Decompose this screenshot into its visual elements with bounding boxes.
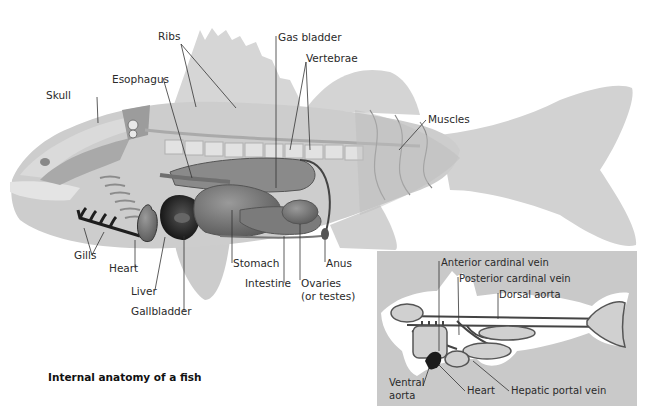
- second-dorsal-fin: [305, 70, 420, 115]
- anus-organ: [321, 228, 329, 240]
- label-ribs: Ribs: [158, 30, 180, 42]
- circulatory-inset: Anterior cardinal vein Posterior cardina…: [377, 251, 637, 406]
- label-esophagus: Esophagus: [112, 73, 169, 85]
- label-muscles: Muscles: [428, 113, 470, 125]
- ovaries-organ: [282, 200, 318, 224]
- label-ventral-aorta-sub: aorta: [389, 390, 415, 402]
- label-posterior-cardinal-vein: Posterior cardinal vein: [459, 273, 571, 285]
- label-heart: Heart: [109, 262, 138, 274]
- label-ventral-aorta: Ventral: [389, 377, 425, 389]
- label-gas-bladder: Gas bladder: [278, 31, 342, 43]
- label-gills: Gills: [74, 249, 96, 261]
- label-inset-heart: Heart: [467, 385, 495, 397]
- label-anterior-cardinal-vein: Anterior cardinal vein: [441, 257, 549, 269]
- label-vertebrae: Vertebrae: [306, 52, 358, 64]
- label-intestine: Intestine: [245, 277, 291, 289]
- label-skull: Skull: [46, 89, 71, 101]
- fish-anatomy-figure: Skull Esophagus Ribs Gas bladder Vertebr…: [0, 0, 651, 420]
- pelvic-fin: [175, 240, 230, 300]
- tail-fin: [440, 86, 636, 246]
- label-ovaries-sub: (or testes): [301, 290, 355, 302]
- gallbladder-organ: [174, 213, 190, 223]
- label-dorsal-aorta: Dorsal aorta: [499, 289, 561, 301]
- label-liver: Liver: [131, 285, 157, 297]
- label-hepatic-portal-vein: Hepatic portal vein: [511, 385, 606, 397]
- label-anus: Anus: [326, 257, 352, 269]
- figure-caption: Internal anatomy of a fish: [48, 371, 202, 383]
- label-gallbladder: Gallbladder: [131, 305, 192, 317]
- label-ovaries: Ovaries: [301, 277, 341, 289]
- label-stomach: Stomach: [233, 257, 279, 269]
